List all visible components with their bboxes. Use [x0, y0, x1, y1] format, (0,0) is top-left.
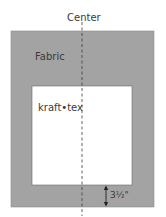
center-label: Center — [67, 13, 101, 23]
fabric-label: Fabric — [35, 52, 65, 62]
dimension-label: 3½" — [110, 191, 129, 200]
kraft-tex-label: kraft•tex — [38, 103, 83, 113]
